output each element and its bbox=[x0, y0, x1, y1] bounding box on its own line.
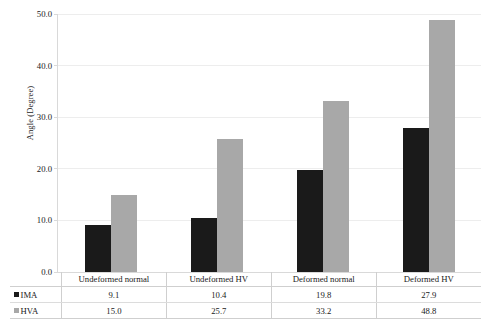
data-table: Undeformed normalUndeformed HVDeformed n… bbox=[10, 272, 481, 319]
plot-area: 0.010.020.030.040.050.0 bbox=[57, 14, 481, 272]
bar-ima-1 bbox=[191, 218, 217, 272]
table-row: HVA15.025.733.248.8 bbox=[10, 303, 481, 319]
bar-hva-3 bbox=[429, 20, 455, 272]
table-value-cell: 33.2 bbox=[271, 303, 376, 319]
legend-item-hva: HVA bbox=[10, 303, 62, 319]
bar-ima-0 bbox=[85, 225, 111, 272]
bar-ima-3 bbox=[403, 128, 429, 272]
bar-group bbox=[270, 14, 376, 272]
legend-label: IMA bbox=[21, 288, 38, 302]
table-corner-cell bbox=[10, 272, 62, 287]
bar-hva-2 bbox=[323, 101, 349, 272]
table-value-cell: 9.1 bbox=[62, 287, 167, 303]
legend-label: HVA bbox=[21, 304, 39, 318]
legend-item-ima: IMA bbox=[10, 287, 62, 303]
y-axis-tick-label: 20.0 bbox=[6, 165, 52, 174]
bar-chart-figure: Angle (Degree) 0.010.020.030.040.050.0 U… bbox=[0, 0, 488, 334]
table-value-cell: 48.8 bbox=[376, 303, 481, 319]
bar-hva-1 bbox=[217, 139, 243, 272]
table-column-header: Deformed HV bbox=[376, 272, 481, 287]
y-axis-tick-label: 40.0 bbox=[6, 62, 52, 71]
y-axis-tick-label: 50.0 bbox=[6, 10, 52, 19]
bar-hva-0 bbox=[111, 195, 137, 272]
bar-ima-2 bbox=[297, 170, 323, 272]
table-column-header: Undeformed HV bbox=[166, 272, 271, 287]
bar-group bbox=[164, 14, 270, 272]
legend-swatch-icon bbox=[14, 308, 19, 313]
bar-group bbox=[376, 14, 482, 272]
table-value-cell: 25.7 bbox=[166, 303, 271, 319]
table-value-cell: 27.9 bbox=[376, 287, 481, 303]
table-value-cell: 19.8 bbox=[271, 287, 376, 303]
table-value-cell: 15.0 bbox=[62, 303, 167, 319]
y-axis-tick-label: 10.0 bbox=[6, 216, 52, 225]
y-axis-tick-label: 30.0 bbox=[6, 113, 52, 122]
legend-swatch-icon bbox=[14, 292, 19, 297]
table-value-cell: 10.4 bbox=[166, 287, 271, 303]
table-column-header: Undeformed normal bbox=[62, 272, 167, 287]
table-column-header: Deformed normal bbox=[271, 272, 376, 287]
table-row: IMA9.110.419.827.9 bbox=[10, 287, 481, 303]
table-header-row: Undeformed normalUndeformed HVDeformed n… bbox=[10, 272, 481, 287]
bar-group bbox=[58, 14, 164, 272]
